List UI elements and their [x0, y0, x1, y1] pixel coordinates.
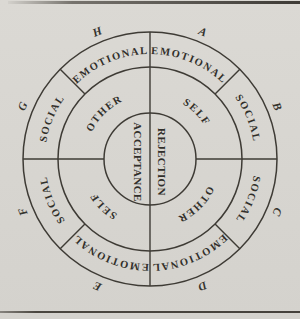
bottom-page-rule	[0, 311, 300, 313]
outer-ring-label-g: SOCIAL	[37, 92, 66, 143]
outer-ring-label-b: SOCIAL	[233, 92, 262, 143]
scanned-page: EMOTIONAL SOCIAL SOCIAL EMOTIONAL EMOTIO…	[0, 0, 300, 319]
sector-letter-e: E	[91, 279, 104, 294]
circumplex-diagram: EMOTIONAL SOCIAL SOCIAL EMOTIONAL EMOTIO…	[0, 0, 300, 319]
sector-letter-b: B	[270, 99, 285, 112]
outer-ring-label-c: SOCIAL	[233, 175, 262, 226]
sector-letter-g: G	[15, 99, 30, 112]
sector-letter-f: F	[15, 206, 30, 219]
outer-ring-label-f: SOCIAL	[37, 175, 66, 226]
middle-ring-label-top-left: OTHER	[84, 93, 125, 134]
center-label-rejection: REJECTION	[156, 128, 168, 196]
sector-letter-h: H	[90, 24, 105, 39]
middle-ring-label-top-right: SELF	[181, 96, 212, 127]
middle-ring-label-bottom-left: SELF	[87, 190, 118, 221]
sector-letter-a: A	[196, 24, 209, 39]
center-label-acceptance: ACCEPTANCE	[132, 122, 144, 202]
middle-ring-label-bottom-right: OTHER	[176, 185, 217, 226]
sector-letter-c: C	[270, 206, 284, 218]
sector-letter-d: D	[196, 279, 210, 294]
